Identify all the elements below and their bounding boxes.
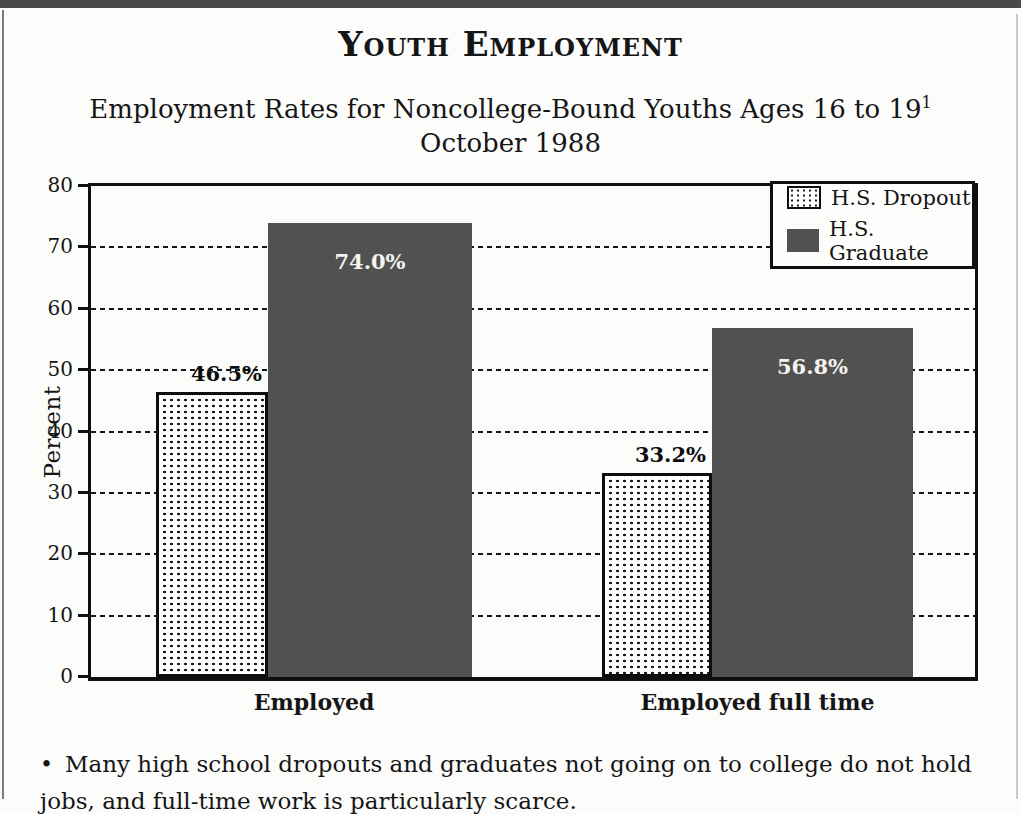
bar-employed-full-time-h-s-dropout xyxy=(602,473,712,677)
y-tick-20 xyxy=(78,552,88,555)
dropout-pattern-swatch xyxy=(787,186,821,209)
legend-item-graduate: H.S. Graduate xyxy=(787,217,972,265)
y-tick-label-40: 40 xyxy=(25,420,73,442)
y-tick-50 xyxy=(78,368,88,371)
bar-employed-full-time-h-s-graduate xyxy=(712,328,913,677)
y-tick-label-10: 10 xyxy=(25,604,73,626)
y-tick-10 xyxy=(78,614,88,617)
y-tick-label-80: 80 xyxy=(25,174,73,196)
y-tick-label-0: 0 xyxy=(25,665,73,687)
subtitle-line2: October 1988 xyxy=(420,128,601,158)
y-tick-60 xyxy=(78,307,88,310)
bullet-icon: • xyxy=(40,752,53,777)
footnote-text-1: Many high school dropouts and graduates … xyxy=(65,751,972,777)
subtitle-line1: Employment Rates for Noncollege-Bound Yo… xyxy=(89,94,921,124)
x-category-label-employed: Employed xyxy=(254,689,375,715)
y-tick-70 xyxy=(78,245,88,248)
bar-employed-h-s-dropout xyxy=(156,392,268,677)
chart-subtitle: Employment Rates for Noncollege-Bound Yo… xyxy=(0,86,1021,160)
bar-employed-h-s-graduate xyxy=(268,223,472,677)
legend-label-graduate: H.S. Graduate xyxy=(829,217,972,265)
footnote-bullet-line-2: jobs, and full-time work is particularly… xyxy=(40,788,990,814)
bar-chart-plot-area: Percent H.S. Dropout H.S. Graduate 01020… xyxy=(88,183,978,681)
footnote-bullet-line-1: •Many high school dropouts and graduates… xyxy=(40,751,990,777)
page-top-strip xyxy=(0,0,1021,8)
value-label-33.2: 33.2% xyxy=(635,442,706,467)
value-label-56.8: 56.8% xyxy=(712,354,913,379)
y-tick-40 xyxy=(78,430,88,433)
legend-label-dropout: H.S. Dropout xyxy=(831,186,971,210)
y-tick-80 xyxy=(78,184,88,187)
subtitle-footnote-marker: 1 xyxy=(922,93,932,112)
y-tick-label-60: 60 xyxy=(25,297,73,319)
graduate-solid-swatch xyxy=(787,229,819,252)
y-tick-30 xyxy=(78,491,88,494)
value-label-74.0: 74.0% xyxy=(268,249,472,274)
chart-legend: H.S. Dropout H.S. Graduate xyxy=(770,181,975,269)
y-tick-label-20: 20 xyxy=(25,542,73,564)
footnote-text-2: jobs, and full-time work is particularly… xyxy=(40,788,577,814)
gridline-60 xyxy=(91,308,975,310)
y-tick-label-50: 50 xyxy=(25,358,73,380)
x-category-label-employed-full-time: Employed full time xyxy=(641,689,875,715)
y-tick-label-30: 30 xyxy=(25,481,73,503)
page-title: Youth Employment xyxy=(0,24,1021,64)
value-label-46.5: 46.5% xyxy=(191,361,262,386)
y-tick-label-70: 70 xyxy=(25,235,73,257)
legend-item-dropout: H.S. Dropout xyxy=(787,186,972,210)
y-tick-0 xyxy=(78,675,88,678)
